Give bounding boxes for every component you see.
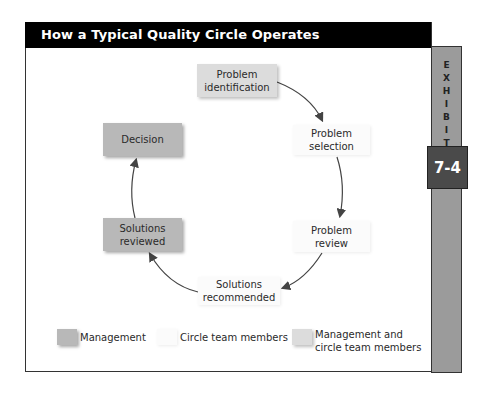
node-problem-identification: Problemidentification <box>197 64 277 97</box>
legend-label-both-line2: circle team members <box>315 341 421 354</box>
node-problem-selection: Problemselection <box>293 125 370 155</box>
node-label-line1: Problem <box>311 224 352 237</box>
node-label-line2: recommended <box>203 291 275 304</box>
arrow-selection-to-review <box>337 157 342 216</box>
node-label-line2: reviewed <box>120 235 166 248</box>
legend-label-team: Circle team members <box>180 331 288 344</box>
legend-swatch-team <box>157 329 177 345</box>
legend-swatch-both <box>292 329 312 345</box>
node-label-line2: identification <box>204 81 269 94</box>
arrow-identification-to-selection <box>277 82 322 120</box>
arrow-reviewed-to-decision <box>132 160 136 218</box>
legend-label-both: Management and circle team members <box>315 328 421 354</box>
node-solutions-recommended: Solutionsrecommended <box>198 277 280 305</box>
node-label-line1: Solutions <box>120 222 166 235</box>
node-label-line1: Problem <box>309 127 354 140</box>
node-label-line2: review <box>311 237 352 250</box>
legend-swatch-management <box>57 329 77 345</box>
arrow-recommended-to-reviewed <box>150 254 198 292</box>
node-decision: Decision <box>103 123 182 156</box>
node-solutions-reviewed: Solutionsreviewed <box>103 218 182 251</box>
node-label-line1: Solutions <box>203 278 275 291</box>
node-label-line1: Problem <box>204 68 269 81</box>
legend-label-both-line1: Management and <box>315 328 421 341</box>
node-label-line2: selection <box>309 140 354 153</box>
arrow-review-to-recommended <box>283 253 322 288</box>
legend-label-management: Management <box>80 331 146 344</box>
node-problem-review: Problemreview <box>293 221 370 252</box>
node-label-line1: Decision <box>121 133 164 146</box>
